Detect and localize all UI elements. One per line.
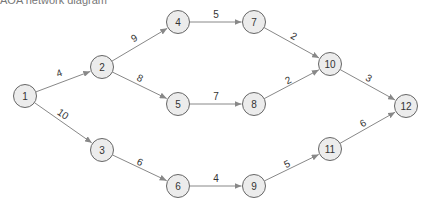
edge-weight-label: 6	[358, 117, 369, 130]
network-diagram: 41098657422536 123456789101112	[0, 0, 430, 216]
edge-weight-label: 3	[364, 72, 375, 85]
node-5: 5	[167, 93, 190, 116]
node-4: 4	[167, 11, 190, 34]
edge-weight-label: 2	[289, 30, 300, 43]
node-10: 10	[319, 53, 342, 76]
node-label: 12	[400, 101, 412, 112]
node-label: 2	[99, 62, 105, 73]
node-1: 1	[14, 85, 37, 108]
edge-weight-label: 7	[213, 91, 219, 102]
node-label: 11	[325, 144, 336, 155]
node-3: 3	[91, 139, 114, 162]
edge-1-2	[36, 71, 91, 92]
node-7: 7	[243, 11, 266, 34]
edge-11-12	[340, 112, 395, 143]
node-6: 6	[167, 175, 190, 198]
edge-weight-label: 4	[213, 173, 219, 184]
edge-weight-label: 4	[54, 67, 63, 79]
node-label: 5	[175, 99, 181, 110]
node-label: 6	[175, 181, 181, 192]
node-label: 8	[251, 99, 257, 110]
node-12: 12	[395, 95, 418, 118]
edge-weight-label: 5	[213, 9, 219, 20]
edges-group	[34, 22, 395, 186]
node-11: 11	[319, 138, 342, 161]
edge-weight-label: 6	[135, 156, 145, 169]
node-label: 3	[99, 145, 105, 156]
edge-weight-label: 10	[55, 106, 71, 122]
node-label: 4	[175, 17, 181, 28]
node-label: 9	[251, 181, 257, 192]
node-9: 9	[243, 175, 266, 198]
edge-7-10	[264, 28, 319, 58]
edge-2-4	[112, 28, 167, 61]
node-2: 2	[91, 56, 114, 79]
node-label: 7	[251, 17, 257, 28]
node-label: 10	[324, 59, 336, 70]
node-label: 1	[22, 91, 28, 102]
edge-weight-label: 9	[129, 32, 140, 45]
edge-weight-label: 8	[135, 72, 145, 85]
node-8: 8	[243, 93, 266, 116]
